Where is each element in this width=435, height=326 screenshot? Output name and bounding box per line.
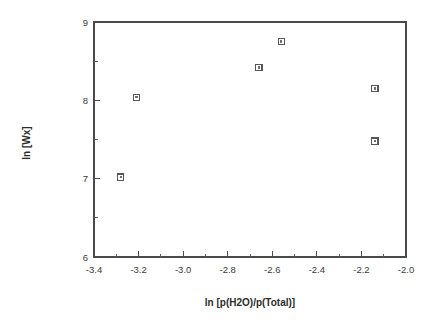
data-point-marker-core xyxy=(280,40,282,42)
x-tick-label: -3.0 xyxy=(175,264,191,275)
data-point-marker-core xyxy=(374,140,376,142)
y-axis-title: ln [Wx] xyxy=(21,126,32,159)
data-point-marker-core xyxy=(120,176,122,178)
x-tick-label: -3.2 xyxy=(130,264,146,275)
y-tick-label: 8 xyxy=(83,95,88,106)
y-tick-label: 9 xyxy=(83,17,88,28)
x-axis-tick-labels: -3.4-3.2-3.0-2.8-2.6-2.4-2.2-2.0 xyxy=(86,264,414,275)
x-tick-label: -2.4 xyxy=(309,264,325,275)
scatter-plot-svg: -3.4-3.2-3.0-2.8-2.6-2.4-2.2-2.0 6789 ln… xyxy=(0,0,435,326)
data-point-markers xyxy=(118,38,378,180)
x-tick-label: -2.8 xyxy=(220,264,236,275)
x-tick-label: -2.2 xyxy=(353,264,369,275)
y-tick-label: 6 xyxy=(83,252,88,263)
plot-frame xyxy=(94,22,406,257)
chart-figure: -3.4-3.2-3.0-2.8-2.6-2.4-2.2-2.0 6789 ln… xyxy=(0,0,435,326)
x-tick-label: -3.4 xyxy=(86,264,102,275)
x-tick-label: -2.6 xyxy=(264,264,280,275)
data-point-marker-core xyxy=(258,66,260,68)
x-tick-label: -2.0 xyxy=(398,264,414,275)
data-point-marker-core xyxy=(374,87,376,89)
data-point-marker-core xyxy=(135,96,137,98)
x-axis-title: ln [p(H2O)/p(Total)] xyxy=(205,297,295,308)
y-tick-label: 7 xyxy=(83,173,88,184)
y-axis-tick-labels: 6789 xyxy=(83,17,88,263)
